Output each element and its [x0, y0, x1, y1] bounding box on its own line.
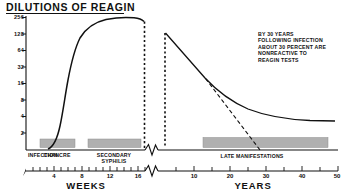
annotation-line: REAGIN TESTS	[258, 57, 326, 63]
phase-bar-late-manifestations	[203, 138, 328, 148]
y-tick-label: 2	[4, 130, 24, 136]
phase-label-late-manifestations: LATE MANIFESTATIONS	[221, 153, 284, 159]
years-tick-label: 50	[334, 173, 341, 179]
y-tick-label: 256	[4, 14, 24, 20]
x-axis-label-years: YEARS	[234, 180, 271, 191]
y-tick-label: 8	[4, 97, 24, 103]
curve-reagin-rise	[48, 17, 144, 149]
phase-label-secondary-syphilis: SECONDARYSYPHILIS	[97, 152, 131, 164]
chart-annotation: BY 30 YEARS FOLLOWING INFECTION ABOUT 30…	[258, 31, 326, 63]
weeks-tick-label: 12	[107, 173, 114, 179]
years-tick-label: 20	[227, 173, 234, 179]
phase-bars	[40, 138, 328, 148]
y-tick-label: 32	[4, 64, 24, 70]
annotation-line: FOLLOWING INFECTION	[258, 37, 326, 43]
y-tick-label: 16	[4, 80, 24, 86]
years-tick-label: 10	[191, 173, 198, 179]
y-axis-tick-labels: 256 128 64 32 16 8 4 2	[0, 0, 24, 192]
years-tick-label: 40	[299, 173, 306, 179]
years-axis	[158, 166, 338, 171]
weeks-axis	[23, 166, 145, 176]
weeks-tick-label: 4	[52, 173, 55, 179]
phase-label-chancre: CHANCRE	[44, 152, 71, 158]
chart-canvas	[0, 0, 342, 192]
y-tick-label: 128	[4, 31, 24, 37]
x-axis-label-weeks: WEEKS	[66, 180, 105, 191]
axis-break-marks	[145, 145, 158, 177]
y-tick-label: 4	[4, 113, 24, 119]
weeks-tick-label: 16	[135, 173, 142, 179]
years-tick-label: 30	[263, 173, 270, 179]
chart-title: DILUTIONS OF REAGIN	[6, 1, 135, 13]
phase-label-secondary-syphilis-text: SECONDARYSYPHILIS	[97, 152, 131, 164]
phase-bar-chancre	[40, 139, 75, 148]
y-tick-label: 64	[4, 47, 24, 53]
phase-bar-secondary-syphilis	[88, 139, 141, 148]
weeks-tick-label: 8	[80, 173, 83, 179]
